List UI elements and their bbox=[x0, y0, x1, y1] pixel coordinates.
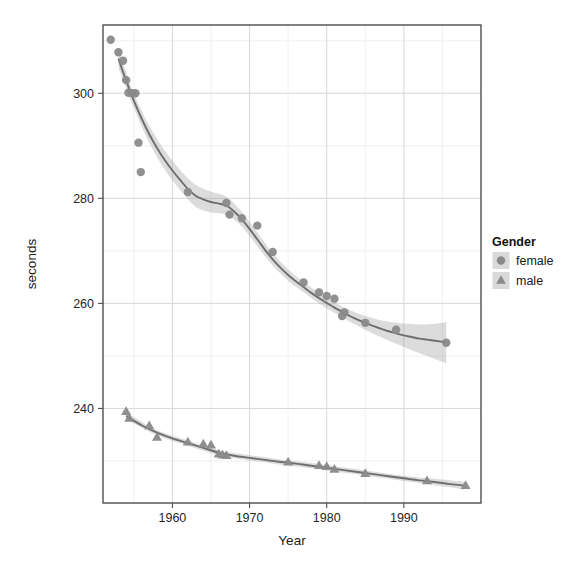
data-point-female bbox=[299, 278, 307, 286]
data-point-female bbox=[222, 199, 230, 207]
data-point-female bbox=[361, 319, 369, 327]
legend-label: male bbox=[516, 274, 543, 288]
y-tick-label: 300 bbox=[73, 87, 94, 101]
chart-svg: 1960197019801990 240260280300 Year secon… bbox=[0, 0, 576, 561]
data-point-female bbox=[330, 294, 338, 302]
data-point-female bbox=[107, 36, 115, 44]
legend-label: female bbox=[516, 254, 554, 268]
data-point-female bbox=[340, 308, 348, 316]
data-point-female bbox=[137, 168, 145, 176]
data-point-female bbox=[134, 138, 142, 146]
x-tick-label: 1990 bbox=[390, 511, 418, 525]
chart-container: 1960197019801990 240260280300 Year secon… bbox=[0, 0, 576, 561]
legend-marker-circle bbox=[497, 256, 505, 264]
data-point-female bbox=[119, 57, 127, 65]
data-point-female bbox=[315, 288, 323, 296]
data-point-female bbox=[131, 89, 139, 97]
data-point-female bbox=[225, 210, 233, 218]
y-tick-label: 240 bbox=[73, 402, 94, 416]
legend-title: Gender bbox=[492, 235, 536, 249]
data-point-female bbox=[253, 221, 261, 229]
y-tick-label: 280 bbox=[73, 192, 94, 206]
data-point-female bbox=[323, 292, 331, 300]
data-point-female bbox=[392, 325, 400, 333]
y-axis-title: seconds bbox=[24, 239, 39, 290]
x-axis-title: Year bbox=[278, 533, 306, 548]
x-tick-label: 1960 bbox=[159, 511, 187, 525]
data-point-female bbox=[114, 48, 122, 56]
data-point-female bbox=[442, 339, 450, 347]
data-point-female bbox=[238, 214, 246, 222]
data-point-female bbox=[122, 76, 130, 84]
legend-item-male[interactable]: male bbox=[493, 272, 544, 289]
data-point-female bbox=[269, 248, 277, 256]
y-tick-label: 260 bbox=[73, 297, 94, 311]
data-point-female bbox=[184, 188, 192, 196]
legend-item-female[interactable]: female bbox=[493, 252, 554, 269]
x-tick-label: 1970 bbox=[236, 511, 264, 525]
x-tick-label: 1980 bbox=[313, 511, 341, 525]
